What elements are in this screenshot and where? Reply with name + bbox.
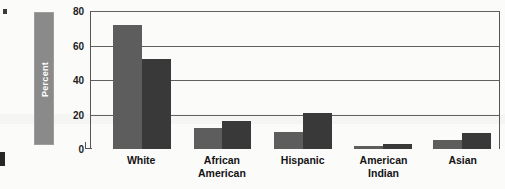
x-axis-category-labels: WhiteAfricanAmericanHispanicAmericanIndi… xyxy=(91,154,499,186)
bar xyxy=(274,132,303,149)
bar-group xyxy=(433,11,491,149)
y-tick-label: 20 xyxy=(60,109,84,120)
y-tick-label: 60 xyxy=(60,40,84,51)
bar-group xyxy=(354,11,412,149)
bar-series-container xyxy=(92,11,498,149)
bar xyxy=(142,59,171,149)
x-category-label: Asian xyxy=(414,154,505,167)
y-axis-origin-tick xyxy=(85,148,92,149)
bar xyxy=(354,146,383,149)
bar-group xyxy=(194,11,252,149)
bar xyxy=(433,140,462,149)
bar xyxy=(222,121,251,149)
bar xyxy=(303,113,332,149)
bar xyxy=(383,144,412,149)
y-tick-label: 80 xyxy=(60,6,84,17)
bar-chart: 020406080 WhiteAfricanAmericanHispanicAm… xyxy=(60,4,500,186)
scan-artifact-bottom xyxy=(0,152,5,166)
bar xyxy=(462,133,491,149)
bar xyxy=(113,25,142,149)
bar-group xyxy=(113,11,171,149)
y-axis-title-label: Percent xyxy=(35,13,55,146)
y-axis-title-plate: Percent xyxy=(34,12,54,145)
y-tick-label: 40 xyxy=(60,75,84,86)
y-tick-label: 0 xyxy=(60,144,84,155)
plot-area xyxy=(90,11,500,149)
bar xyxy=(194,128,223,149)
bar-group xyxy=(274,11,332,149)
y-axis-origin-tick-vertical xyxy=(85,142,86,149)
y-axis-tick-labels: 020406080 xyxy=(60,4,84,154)
scan-artifact-top xyxy=(3,9,7,14)
